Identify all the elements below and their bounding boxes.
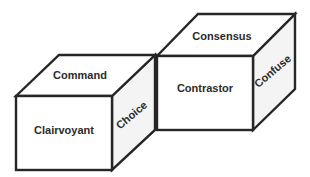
left-cube-front-label: Clairvoyant — [34, 124, 94, 136]
right-cube: Consensus Contrastor Confuse — [157, 14, 295, 130]
left-cube-top-label: Command — [53, 69, 107, 81]
right-cube-front-label: Contrastor — [177, 82, 234, 94]
cube-diagram: Command Clairvoyant Choice Consensus Con… — [0, 0, 310, 177]
left-cube: Command Clairvoyant Choice — [16, 55, 155, 170]
right-cube-top-label: Consensus — [192, 30, 251, 42]
